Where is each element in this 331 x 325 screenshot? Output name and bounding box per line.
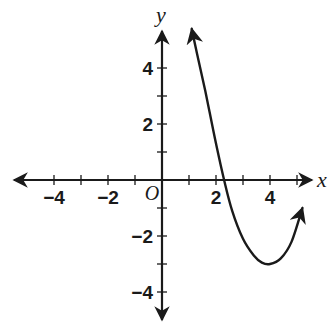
y-tick-label: −2: [131, 226, 153, 247]
y-tick-label: 4: [142, 58, 153, 79]
x-tick-label: 4: [265, 187, 276, 208]
function-curve: [192, 29, 303, 264]
y-tick-label: −4: [131, 282, 153, 303]
curve: [192, 29, 303, 264]
tick-labels: −4−22442−2−4xyO: [43, 2, 327, 303]
x-tick-label: −2: [97, 187, 119, 208]
x-tick-label: 2: [211, 187, 222, 208]
coordinate-plane: −4−22442−2−4xyO: [0, 0, 331, 325]
x-tick-label: −4: [43, 187, 65, 208]
axes: [14, 31, 312, 320]
x-axis-label: x: [316, 167, 327, 192]
y-axis-label: y: [154, 2, 166, 27]
origin-label: O: [145, 182, 159, 204]
y-tick-label: 2: [142, 114, 153, 135]
